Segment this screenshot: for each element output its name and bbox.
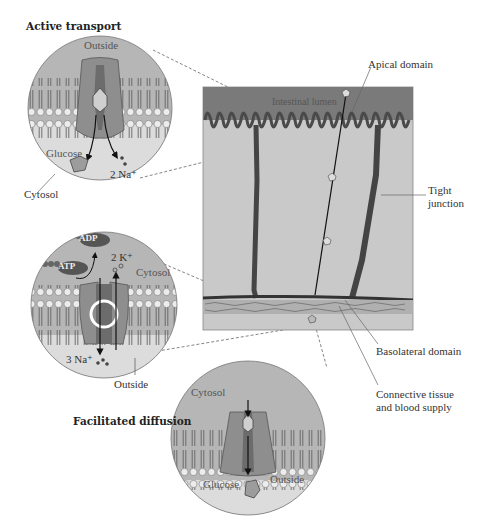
label-glucose-1: Glucose	[46, 147, 82, 159]
label-atp: ATP	[58, 261, 75, 271]
circle-active-transport	[28, 36, 172, 185]
label-tight-junction-2: junction	[428, 197, 464, 209]
label-connective-1: Connective tissue	[376, 388, 454, 400]
label-cytosol-1: Cytosol	[24, 188, 58, 200]
label-connective-2: and blood supply	[376, 401, 452, 413]
label-sodium-1: 2 Na⁺	[110, 168, 137, 180]
label-sodium-2: 3 Na⁺	[66, 353, 93, 365]
label-adp: ADP	[79, 233, 98, 243]
label-outside-2: Outside	[114, 378, 148, 390]
label-tight-junction-1: Tight	[428, 184, 451, 196]
label-outside-3: Outside	[270, 473, 304, 485]
label-glucose-3: Glucose	[203, 478, 239, 490]
label-outside-1: Outside	[84, 39, 118, 51]
title-active-transport: Active transport	[26, 20, 121, 32]
circle-facilitated-diffusion	[170, 360, 330, 520]
label-intestinal-lumen: Intestinal lumen	[272, 96, 337, 108]
label-cytosol-3: Cytosol	[191, 386, 225, 398]
label-apical-domain: Apical domain	[368, 58, 433, 70]
label-cytosol-2: Cytosol	[136, 266, 170, 278]
epithelium-panel	[203, 87, 413, 330]
label-potassium: 2 K⁺	[111, 251, 133, 263]
label-basolateral-domain: Basolateral domain	[376, 345, 461, 357]
title-facilitated-diffusion: Facilitated diffusion	[73, 415, 191, 427]
